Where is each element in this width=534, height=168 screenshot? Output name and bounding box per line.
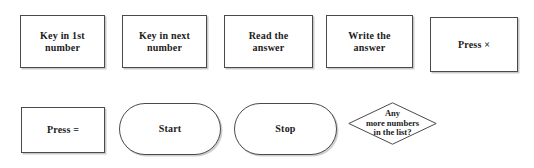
- flowchart-shape-write-the-answer[interactable]: Write the answer: [326, 15, 413, 68]
- shape-label: Press =: [47, 124, 79, 136]
- flowchart-shape-stop[interactable]: Stop: [234, 103, 337, 155]
- shape-label: Write the answer: [348, 30, 390, 53]
- shape-label: Press ×: [458, 39, 490, 51]
- shape-label: Start: [159, 123, 182, 135]
- flowchart-shape-press-equals[interactable]: Press =: [21, 107, 105, 153]
- shape-label: Read the answer: [249, 30, 289, 53]
- flowchart-shape-read-the-answer[interactable]: Read the answer: [224, 15, 313, 68]
- flowchart-canvas: Key in 1st number Key in next number Rea…: [0, 0, 534, 168]
- flowchart-shape-press-times[interactable]: Press ×: [430, 17, 518, 72]
- flowchart-shape-start[interactable]: Start: [119, 103, 221, 155]
- flowchart-shape-key-in-next-number[interactable]: Key in next number: [122, 15, 207, 68]
- shape-label: Any more numbers in the list?: [348, 102, 437, 145]
- shape-label: Stop: [275, 123, 295, 135]
- shape-label: Key in next number: [139, 30, 190, 53]
- flowchart-shape-any-more-numbers[interactable]: Any more numbers in the list?: [348, 102, 437, 145]
- flowchart-shape-key-in-1st-number[interactable]: Key in 1st number: [20, 15, 105, 68]
- shape-label: Key in 1st number: [40, 30, 85, 53]
